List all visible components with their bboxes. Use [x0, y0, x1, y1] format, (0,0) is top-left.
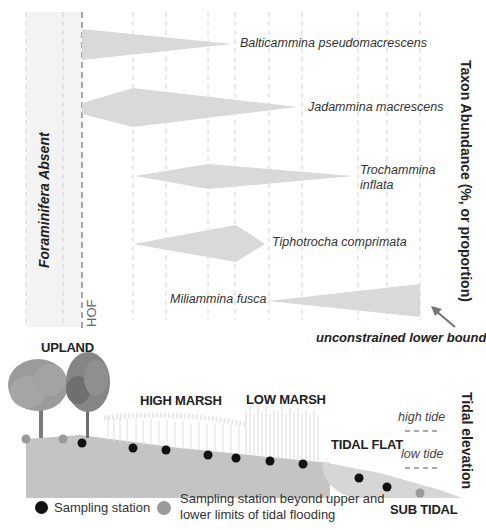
balticammina-shape [82, 29, 232, 60]
foraminifera-absent-label: Foraminifera Absent [36, 132, 52, 268]
species-label-miliammina: Miliammina fusca [170, 292, 267, 306]
legend: Sampling station Sampling station beyond… [0, 496, 479, 530]
species-label-tiphotrocha: Tiphotrocha comprimata [272, 235, 407, 249]
zone-label-high-marsh: HIGH MARSH [140, 393, 222, 408]
low-marsh-grass [246, 406, 318, 463]
zone-label-upland: UPLAND [41, 340, 94, 355]
species-label-jadammina: Jadammina macrescens [308, 100, 443, 114]
species-label-trochammina: Trochammina [360, 163, 435, 177]
tree-icon-left [8, 359, 68, 438]
legend-station-dot [35, 501, 48, 514]
hof-label: HOF [84, 300, 99, 327]
legend-beyond-dot [157, 501, 171, 515]
tidal-elevation-label: Tidal elevation [459, 392, 475, 489]
arrow-icon [431, 306, 455, 327]
trochammina-shape [135, 164, 353, 189]
zone-label-tidal-flat: TIDAL FLAT [331, 437, 403, 452]
y-axis-label: Taxon Abundance (%, or proportion) [458, 60, 474, 302]
low-tide-label: low tide [401, 447, 443, 461]
legend-beyond-label-line2: lower limits of tidal flooding [180, 507, 335, 522]
legend-beyond-label-line1: Sampling station beyond upper and [180, 491, 385, 506]
species-label-inflata: inflata [360, 178, 393, 192]
legend-station-label: Sampling station [54, 500, 150, 515]
abundance-chart: Foraminifera Absent HOF Balticammina pse… [0, 0, 479, 340]
miliammina-shape [268, 284, 420, 317]
species-label-balticammina: Balticammina pseudomacrescens [240, 36, 427, 50]
tiphotrocha-shape [133, 225, 265, 262]
zone-label-low-marsh: LOW MARSH [246, 392, 326, 407]
high-tide-label: high tide [398, 410, 445, 424]
jadammina-shape [82, 88, 298, 127]
tree-icon-right [66, 352, 110, 438]
